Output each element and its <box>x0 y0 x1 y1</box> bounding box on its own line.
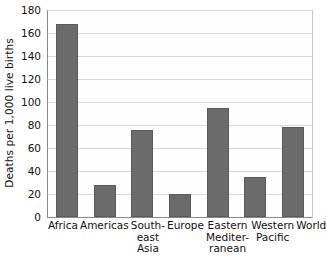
x-axis-tick: Eastern Mediter- ranean <box>205 220 250 255</box>
y-axis-tick: 20 <box>28 189 41 200</box>
y-axis-tick: 80 <box>28 120 41 131</box>
bar-slot <box>274 10 312 217</box>
bar-chart: Deaths per 1,000 live births 18016014012… <box>0 0 326 267</box>
bar[interactable] <box>282 127 304 217</box>
y-axis-title-label: Deaths per 1,000 live births <box>3 38 15 188</box>
y-axis-title: Deaths per 1,000 live births <box>0 0 18 225</box>
plot-area <box>47 10 313 218</box>
bar[interactable] <box>207 108 229 217</box>
bar[interactable] <box>169 194 191 217</box>
y-axis-tick: 100 <box>21 97 41 108</box>
y-axis-tick: 180 <box>21 5 41 16</box>
x-axis-tick-labels: AfricaAmericasSouth- east AsiaEuropeEast… <box>47 220 313 267</box>
bar[interactable] <box>94 185 116 217</box>
bar[interactable] <box>244 177 266 217</box>
bar-slot <box>123 10 161 217</box>
y-axis-tick: 40 <box>28 166 41 177</box>
y-axis-tick: 160 <box>21 28 41 39</box>
bar[interactable] <box>56 24 78 217</box>
bar-slot <box>161 10 199 217</box>
x-axis-tick: Americas <box>79 220 130 232</box>
bar-slot <box>237 10 275 217</box>
x-axis-tick: Western Pacific <box>250 220 295 243</box>
x-axis-tick: South- east Asia <box>130 220 166 255</box>
bar-slot <box>199 10 237 217</box>
bar-slot <box>48 10 86 217</box>
y-axis-tick: 0 <box>34 212 41 223</box>
y-axis-tick-labels: 180160140120100806040200 <box>18 0 44 225</box>
bar-slot <box>86 10 124 217</box>
y-axis-tick: 120 <box>21 74 41 85</box>
x-axis-tick: Africa <box>47 220 79 232</box>
x-axis-tick: Europe <box>166 220 205 232</box>
y-axis-tick: 60 <box>28 143 41 154</box>
x-axis-tick: World <box>295 220 326 232</box>
y-axis-tick: 140 <box>21 51 41 62</box>
bars-container <box>48 10 312 217</box>
bar[interactable] <box>131 130 153 217</box>
